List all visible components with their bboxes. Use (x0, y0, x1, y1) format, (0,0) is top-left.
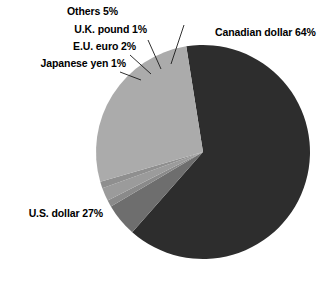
pie-label-eu-euro: E.U. euro 2% (73, 41, 136, 52)
pie-label-us-dollar: U.S. dollar 27% (29, 208, 103, 219)
pie-label-japanese-yen: Japanese yen 1% (41, 58, 126, 69)
pie-chart-svg (0, 0, 331, 286)
pie-chart: Canadian dollar 64% Others 5% U.K. pound… (0, 0, 331, 286)
pie-label-canadian-dollar: Canadian dollar 64% (215, 27, 316, 38)
pie-slices (96, 45, 310, 259)
pie-label-uk-pound: U.K. pound 1% (74, 24, 147, 35)
pie-label-others: Others 5% (67, 6, 118, 17)
